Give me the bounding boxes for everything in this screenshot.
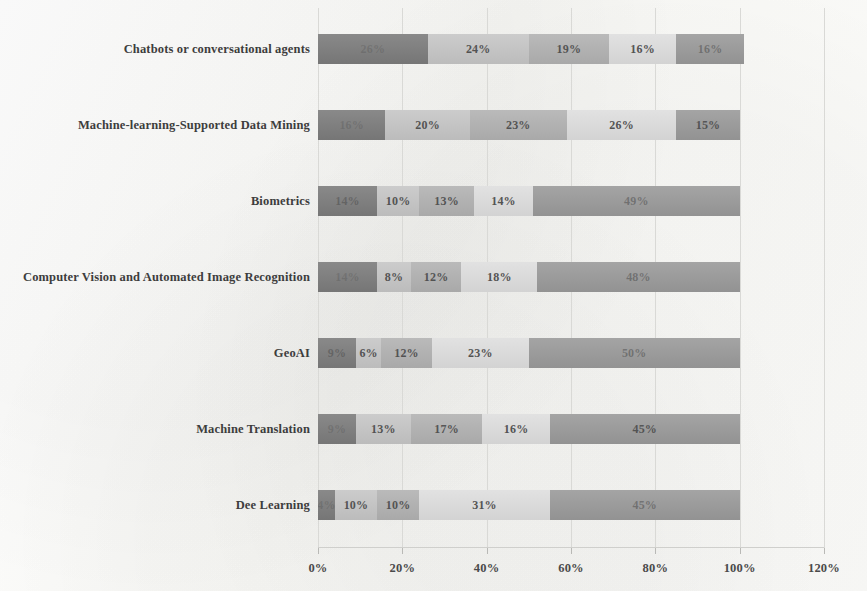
bar-segment: 12% bbox=[381, 338, 432, 368]
bar-row: 4%10%10%31%45% bbox=[318, 490, 740, 520]
bar-segment: 10% bbox=[377, 490, 419, 520]
bar-segment: 26% bbox=[567, 110, 677, 140]
x-gridline bbox=[824, 8, 825, 548]
bar-segment: 50% bbox=[529, 338, 740, 368]
x-axis-tick bbox=[824, 548, 825, 554]
x-axis-tick-label: 100% bbox=[724, 561, 756, 576]
x-axis-tick bbox=[487, 548, 488, 554]
x-axis-tick-label: 80% bbox=[643, 561, 669, 576]
bar-segment: 24% bbox=[428, 34, 529, 64]
bar-segment: 16% bbox=[609, 34, 676, 64]
bar-segment: 9% bbox=[318, 338, 356, 368]
bar-segment: 13% bbox=[356, 414, 411, 444]
x-axis-tick bbox=[402, 548, 403, 554]
bar-segment: 6% bbox=[356, 338, 381, 368]
x-axis-tick-label: 0% bbox=[308, 561, 327, 576]
x-axis-tick bbox=[740, 548, 741, 554]
bar-segment: 48% bbox=[537, 262, 739, 292]
category-label: Biometrics bbox=[0, 194, 310, 209]
x-axis-tick-label: 120% bbox=[808, 561, 840, 576]
bar-segment: 45% bbox=[550, 414, 740, 444]
bar-segment: 14% bbox=[474, 186, 533, 216]
stacked-bar-chart: 0%20%40%60%80%100%120%26%24%19%16%16%16%… bbox=[0, 0, 867, 591]
bar-row: 9%6%12%23%50% bbox=[318, 338, 740, 368]
bar-segment: 17% bbox=[411, 414, 483, 444]
x-axis-tick bbox=[571, 548, 572, 554]
category-label: Machine-learning-Supported Data Mining bbox=[0, 118, 310, 133]
x-gridline bbox=[740, 8, 741, 548]
bar-segment: 13% bbox=[419, 186, 474, 216]
bar-segment: 14% bbox=[318, 262, 377, 292]
bar-segment: 15% bbox=[676, 110, 739, 140]
category-label: Chatbots or conversational agents bbox=[0, 42, 310, 57]
x-axis-tick bbox=[655, 548, 656, 554]
bar-segment: 23% bbox=[470, 110, 567, 140]
bar-segment: 9% bbox=[318, 414, 356, 444]
bar-segment: 16% bbox=[676, 34, 743, 64]
bar-segment: 10% bbox=[377, 186, 419, 216]
x-axis-tick-label: 40% bbox=[474, 561, 500, 576]
bar-segment: 18% bbox=[461, 262, 537, 292]
bar-segment: 12% bbox=[411, 262, 462, 292]
bar-segment: 31% bbox=[419, 490, 550, 520]
bar-segment: 14% bbox=[318, 186, 377, 216]
category-label: Computer Vision and Automated Image Reco… bbox=[0, 270, 310, 285]
category-label: Dee Learning bbox=[0, 498, 310, 513]
bar-segment: 16% bbox=[482, 414, 549, 444]
bar-segment: 45% bbox=[550, 490, 740, 520]
x-axis-tick-label: 60% bbox=[558, 561, 584, 576]
bar-row: 14%10%13%14%49% bbox=[318, 186, 740, 216]
bar-row: 16%20%23%26%15% bbox=[318, 110, 740, 140]
bar-segment: 10% bbox=[335, 490, 377, 520]
bar-segment: 19% bbox=[529, 34, 609, 64]
bar-segment: 49% bbox=[533, 186, 740, 216]
bar-segment: 4% bbox=[318, 490, 335, 520]
bar-row: 14%8%12%18%48% bbox=[318, 262, 740, 292]
bar-row: 26%24%19%16%16% bbox=[318, 34, 744, 64]
bar-segment: 20% bbox=[385, 110, 469, 140]
x-axis-tick-label: 20% bbox=[390, 561, 416, 576]
bar-segment: 16% bbox=[318, 110, 385, 140]
bar-segment: 23% bbox=[432, 338, 529, 368]
bar-row: 9%13%17%16%45% bbox=[318, 414, 740, 444]
bar-segment: 8% bbox=[377, 262, 411, 292]
x-axis-tick bbox=[318, 548, 319, 554]
x-axis-line bbox=[318, 547, 824, 548]
bar-segment: 26% bbox=[318, 34, 428, 64]
category-label: GeoAI bbox=[0, 346, 310, 361]
category-label: Machine Translation bbox=[0, 422, 310, 437]
plot-area: 0%20%40%60%80%100%120%26%24%19%16%16%16%… bbox=[318, 8, 824, 548]
